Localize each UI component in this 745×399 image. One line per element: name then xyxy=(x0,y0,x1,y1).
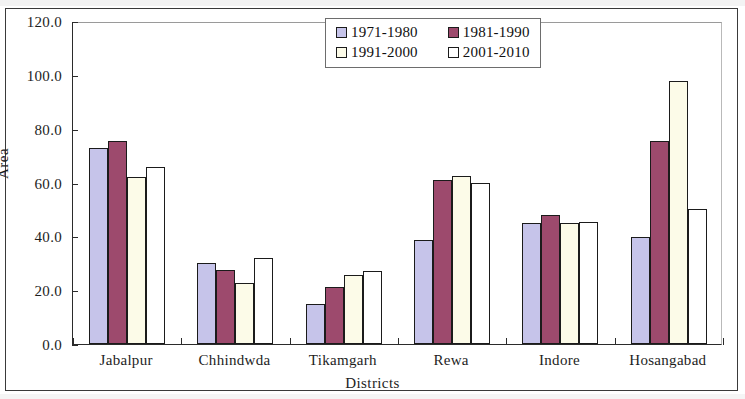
bar[interactable] xyxy=(254,258,273,344)
y-axis-tick-mark xyxy=(72,291,78,292)
chart-figure: Area 0.020.040.060.080.0100.0120.0 Jabal… xyxy=(0,0,745,399)
y-axis-tick-mark xyxy=(72,184,78,185)
bars-container xyxy=(73,23,721,344)
legend-label: 2001-2010 xyxy=(463,44,530,61)
bar-group xyxy=(506,23,614,344)
y-axis-tick-label: 100.0 xyxy=(27,67,62,84)
y-axis-tick-label: 0.0 xyxy=(42,337,62,354)
legend-swatch-icon xyxy=(448,27,459,38)
y-axis-tick-mark xyxy=(72,237,78,238)
bar[interactable] xyxy=(433,180,452,344)
y-axis-tick-label: 20.0 xyxy=(35,283,62,300)
bar[interactable] xyxy=(325,287,344,344)
bar[interactable] xyxy=(669,81,688,344)
bar[interactable] xyxy=(363,271,382,344)
bar[interactable] xyxy=(197,263,216,344)
bar[interactable] xyxy=(146,167,165,344)
bar-group xyxy=(398,23,506,344)
bar[interactable] xyxy=(306,304,325,344)
x-axis-category-label: Tikamgarh xyxy=(309,352,377,369)
x-axis-category-label: Rewa xyxy=(433,352,468,369)
legend-entry[interactable]: 1991-2000 xyxy=(336,44,418,61)
legend-entry[interactable]: 1981-1990 xyxy=(448,24,530,41)
y-axis-tick-mark xyxy=(72,22,78,23)
bar[interactable] xyxy=(108,141,127,344)
bar-group xyxy=(615,23,723,344)
legend-swatch-icon xyxy=(336,27,347,38)
chart-legend: 1971-19801981-19901991-20002001-2010 xyxy=(325,18,541,68)
x-axis-category-label: Hosangabad xyxy=(629,352,706,369)
y-axis-tick-labels: 0.020.040.060.080.0100.0120.0 xyxy=(0,22,62,345)
bar[interactable] xyxy=(216,270,235,344)
legend-entry[interactable]: 1971-1980 xyxy=(336,24,418,41)
bar[interactable] xyxy=(631,237,650,344)
x-axis-category-label: Jabalpur xyxy=(100,352,153,369)
y-axis-tick-mark xyxy=(72,76,78,77)
bar-group xyxy=(73,23,181,344)
bar[interactable] xyxy=(235,283,254,344)
x-axis-title: Districts xyxy=(0,375,745,392)
y-axis-tick-mark xyxy=(72,130,78,131)
legend-entry[interactable]: 2001-2010 xyxy=(448,44,530,61)
x-axis-tick-mark xyxy=(73,338,74,345)
bar[interactable] xyxy=(522,223,541,344)
legend-label: 1971-1980 xyxy=(351,24,418,41)
scan-edge-bottom xyxy=(0,394,745,399)
scan-edge-top xyxy=(0,0,745,6)
legend-label: 1991-2000 xyxy=(351,44,418,61)
y-axis-tick-label: 40.0 xyxy=(35,229,62,246)
legend-swatch-icon xyxy=(448,47,459,58)
bar[interactable] xyxy=(688,209,707,344)
bar[interactable] xyxy=(579,222,598,344)
legend-swatch-icon xyxy=(336,47,347,58)
legend-label: 1981-1990 xyxy=(463,24,530,41)
x-axis-category-label: Chhindwda xyxy=(199,352,271,369)
bar[interactable] xyxy=(127,177,146,344)
y-axis-tick-mark xyxy=(72,345,78,346)
y-axis-tick-label: 80.0 xyxy=(35,121,62,138)
plot-area xyxy=(72,22,722,345)
x-axis-tick-mark xyxy=(723,338,724,345)
bar[interactable] xyxy=(650,141,669,344)
bar[interactable] xyxy=(414,240,433,344)
y-axis-tick-label: 60.0 xyxy=(35,175,62,192)
bar[interactable] xyxy=(452,176,471,344)
bar[interactable] xyxy=(471,183,490,344)
bar[interactable] xyxy=(541,215,560,344)
bar-group xyxy=(181,23,289,344)
bar[interactable] xyxy=(89,148,108,344)
bar[interactable] xyxy=(560,223,579,344)
bar-group xyxy=(290,23,398,344)
bar[interactable] xyxy=(344,275,363,344)
y-axis-tick-label: 120.0 xyxy=(27,14,62,31)
x-axis-category-label: Indore xyxy=(539,352,580,369)
